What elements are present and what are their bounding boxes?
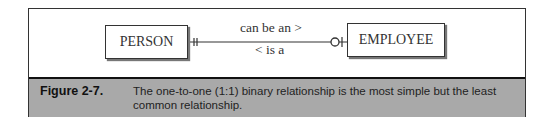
relationship-reverse-label: < is a: [255, 42, 284, 58]
figure-number: Figure 2-7.: [40, 84, 103, 98]
entity-person-label: PERSON: [120, 34, 174, 50]
figure-frame: PERSON EMPLOYEE can be an > < is a Figur…: [28, 8, 526, 117]
caption-text: The one-to-one (1:1) binary relationship…: [133, 84, 513, 112]
er-diagram: PERSON EMPLOYEE can be an > < is a: [29, 9, 525, 77]
entity-person: PERSON: [105, 25, 188, 59]
figure-caption: Figure 2-7. The one-to-one (1:1) binary …: [29, 77, 525, 117]
relationship-forward-label: can be an >: [240, 20, 302, 36]
entity-employee: EMPLOYEE: [347, 23, 445, 57]
entity-employee-label: EMPLOYEE: [359, 32, 434, 48]
